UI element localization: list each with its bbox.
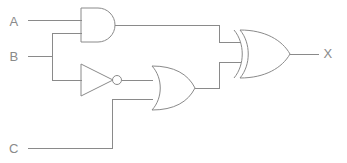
and-gate	[81, 8, 115, 42]
input-label-c: C	[9, 141, 19, 156]
input-label-a: A	[9, 14, 18, 29]
output-label-x: X	[323, 46, 332, 61]
logic-circuit-diagram: A B C X	[0, 0, 347, 163]
xor-gate-arc	[234, 30, 242, 78]
wire-or-output	[195, 62, 240, 88]
input-label-b: B	[9, 49, 18, 64]
not-gate-bubble-icon	[113, 76, 122, 85]
wire-and-output	[115, 25, 240, 42]
xor-gate	[240, 30, 290, 78]
not-gate	[81, 64, 113, 96]
or-gate	[152, 66, 195, 110]
wire-input-c	[28, 99, 152, 148]
